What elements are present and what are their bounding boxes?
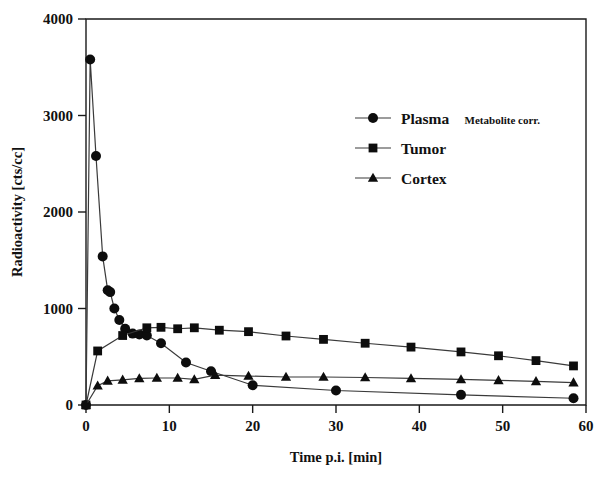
data-point-square bbox=[93, 347, 102, 356]
data-point-square bbox=[157, 323, 166, 332]
x-tick-label: 20 bbox=[245, 418, 260, 434]
x-axis-title: Time p.i. [min] bbox=[290, 449, 382, 465]
y-tick-label: 3000 bbox=[43, 108, 73, 124]
data-point-square bbox=[142, 323, 151, 332]
legend-label: Cortex bbox=[401, 170, 447, 187]
data-point-square bbox=[532, 356, 541, 365]
data-point-circle bbox=[248, 380, 258, 390]
legend-label: Plasma bbox=[401, 110, 449, 127]
data-point-square bbox=[494, 351, 503, 360]
data-point-square bbox=[319, 335, 328, 344]
data-point-circle bbox=[456, 390, 466, 400]
data-point-square bbox=[282, 332, 291, 341]
radioactivity-time-chart: 01000200030004000 0102030405060 PlasmaMe… bbox=[0, 0, 609, 484]
data-point-circle bbox=[569, 393, 579, 403]
y-tick-label: 2000 bbox=[43, 204, 73, 220]
data-point-square bbox=[407, 343, 416, 352]
data-point-square bbox=[244, 327, 253, 336]
y-tick-label: 0 bbox=[66, 397, 74, 413]
chart-figure: 01000200030004000 0102030405060 PlasmaMe… bbox=[0, 0, 609, 484]
data-point-square bbox=[190, 323, 199, 332]
data-point-square bbox=[569, 362, 578, 371]
data-point-circle bbox=[105, 287, 115, 297]
data-point-circle bbox=[114, 315, 124, 325]
data-point-square bbox=[215, 326, 224, 335]
x-tick-label: 40 bbox=[412, 418, 427, 434]
x-tick-label: 10 bbox=[162, 418, 177, 434]
y-tick-label: 4000 bbox=[43, 11, 73, 27]
x-tick-label: 0 bbox=[82, 418, 90, 434]
legend-marker-square bbox=[369, 144, 378, 153]
data-point-circle bbox=[91, 151, 101, 161]
data-point-circle bbox=[85, 55, 95, 65]
data-point-circle bbox=[156, 338, 166, 348]
data-point-circle bbox=[109, 304, 119, 314]
legend-sublabel: Metabolite corr. bbox=[465, 114, 541, 126]
data-point-square bbox=[173, 324, 182, 333]
x-tick-label: 50 bbox=[495, 418, 510, 434]
data-point-circle bbox=[331, 386, 341, 396]
data-point-circle bbox=[181, 358, 191, 368]
data-point-square bbox=[361, 339, 370, 348]
x-tick-label: 30 bbox=[329, 418, 344, 434]
legend-label: Tumor bbox=[401, 140, 446, 157]
data-point-square bbox=[118, 331, 127, 340]
y-tick-label: 1000 bbox=[43, 301, 73, 317]
y-axis-title: Radioactivity [cts/cc] bbox=[9, 147, 25, 277]
data-point-square bbox=[457, 348, 466, 357]
legend-marker-circle bbox=[368, 113, 378, 123]
x-tick-label: 60 bbox=[579, 418, 594, 434]
data-point-circle bbox=[98, 251, 108, 261]
